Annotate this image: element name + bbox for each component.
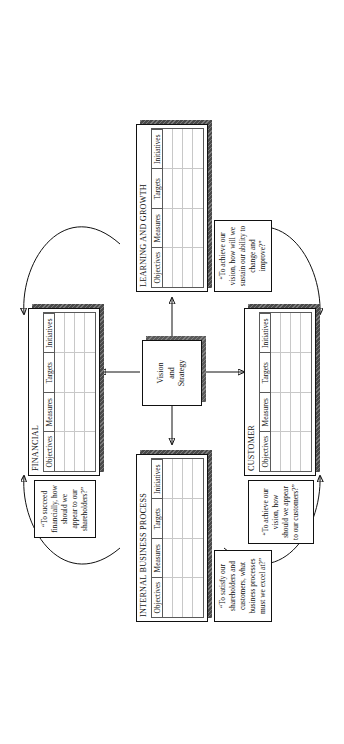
panel-internal-business-process[interactable]: INTERNAL BUSINESS PROCESS Objectives Mea… bbox=[136, 454, 208, 622]
grid-cell[interactable] bbox=[173, 129, 183, 169]
grid-cell[interactable] bbox=[163, 169, 173, 209]
vision-and-strategy-box[interactable]: Vision and Strategy bbox=[142, 340, 202, 406]
grid-cell[interactable] bbox=[55, 313, 65, 353]
grid-cell[interactable] bbox=[173, 499, 183, 539]
column-header-targets: Targets bbox=[152, 499, 163, 539]
column-header-initiatives: Initiatives bbox=[260, 313, 271, 353]
grid-cell[interactable] bbox=[173, 208, 183, 248]
grid-cell[interactable] bbox=[163, 538, 173, 578]
grid-cell[interactable] bbox=[173, 538, 183, 578]
grid-cell[interactable] bbox=[271, 432, 281, 472]
grid-cell[interactable] bbox=[183, 578, 193, 618]
grid-cell[interactable] bbox=[301, 353, 311, 393]
column-header-objectives: Objectives bbox=[44, 432, 55, 472]
arrow-curve-learning-to-financial bbox=[24, 227, 120, 314]
panel-title-customer: CUSTOMER bbox=[248, 425, 256, 471]
grid-cell[interactable] bbox=[65, 353, 75, 393]
grid-cell[interactable] bbox=[193, 129, 203, 169]
grid-cell[interactable] bbox=[173, 578, 183, 618]
vision-line-2: and bbox=[167, 360, 177, 387]
grid-cell[interactable] bbox=[183, 499, 193, 539]
grid-cell[interactable] bbox=[193, 499, 203, 539]
column-header-measures: Measures bbox=[152, 208, 163, 248]
grid-cell[interactable] bbox=[163, 578, 173, 618]
grid-cell[interactable] bbox=[193, 169, 203, 209]
grid-cell[interactable] bbox=[271, 313, 281, 353]
column-header-objectives: Objectives bbox=[260, 432, 271, 472]
quote-financial: “To succeed financially, how should we a… bbox=[34, 480, 96, 538]
grid-cell[interactable] bbox=[75, 432, 85, 472]
column-header-objectives: Objectives bbox=[152, 578, 163, 618]
grid-cell[interactable] bbox=[163, 208, 173, 248]
balanced-scorecard-diagram: FINANCIAL Objectives Measures Targets In… bbox=[0, 0, 344, 744]
column-header-targets: Targets bbox=[152, 169, 163, 209]
grid-cell[interactable] bbox=[281, 353, 291, 393]
panel-customer[interactable]: CUSTOMER Objectives Measures Targets Ini… bbox=[244, 308, 316, 476]
grid-cell[interactable] bbox=[85, 432, 95, 472]
grid-cell[interactable] bbox=[193, 248, 203, 288]
scorecard-grid-learning-and-growth: Objectives Measures Targets Initiatives bbox=[151, 128, 204, 288]
grid-cell[interactable] bbox=[183, 538, 193, 578]
grid-cell[interactable] bbox=[281, 313, 291, 353]
grid-cell[interactable] bbox=[85, 313, 95, 353]
panel-title-financial: FINANCIAL bbox=[32, 425, 40, 471]
grid-cell[interactable] bbox=[55, 353, 65, 393]
column-header-measures: Measures bbox=[152, 538, 163, 578]
grid-cell[interactable] bbox=[173, 248, 183, 288]
grid-cell[interactable] bbox=[65, 392, 75, 432]
grid-cell[interactable] bbox=[281, 392, 291, 432]
grid-cell[interactable] bbox=[163, 499, 173, 539]
grid-cell[interactable] bbox=[301, 313, 311, 353]
grid-cell[interactable] bbox=[193, 578, 203, 618]
grid-cell[interactable] bbox=[183, 169, 193, 209]
grid-cell[interactable] bbox=[291, 313, 301, 353]
diagram-canvas: FINANCIAL Objectives Measures Targets In… bbox=[0, 0, 344, 744]
grid-cell[interactable] bbox=[193, 538, 203, 578]
grid-cell[interactable] bbox=[183, 248, 193, 288]
grid-cell[interactable] bbox=[271, 392, 281, 432]
grid-cell[interactable] bbox=[85, 353, 95, 393]
panel-body: INTERNAL BUSINESS PROCESS Objectives Mea… bbox=[136, 454, 208, 622]
grid-cell[interactable] bbox=[183, 459, 193, 499]
vision-line-3: Strategy bbox=[177, 360, 187, 387]
grid-cell[interactable] bbox=[271, 353, 281, 393]
quote-learning-and-growth: “To achieve our vision, how will we sust… bbox=[214, 220, 272, 292]
column-header-objectives: Objectives bbox=[152, 248, 163, 288]
grid-cell[interactable] bbox=[85, 392, 95, 432]
grid-cell[interactable] bbox=[163, 459, 173, 499]
panel-learning-and-growth[interactable]: LEARNING AND GROWTH Objectives Measures … bbox=[136, 124, 208, 292]
grid-cell[interactable] bbox=[291, 432, 301, 472]
grid-cell[interactable] bbox=[75, 392, 85, 432]
scorecard-grid-customer: Objectives Measures Targets Initiatives bbox=[259, 312, 312, 472]
column-header-initiatives: Initiatives bbox=[44, 313, 55, 353]
grid-cell[interactable] bbox=[65, 432, 75, 472]
column-header-targets: Targets bbox=[260, 353, 271, 393]
grid-cell[interactable] bbox=[173, 459, 183, 499]
grid-cell[interactable] bbox=[55, 392, 65, 432]
grid-cell[interactable] bbox=[183, 208, 193, 248]
column-header-measures: Measures bbox=[260, 392, 271, 432]
grid-cell[interactable] bbox=[75, 353, 85, 393]
grid-cell[interactable] bbox=[173, 169, 183, 209]
grid-cell[interactable] bbox=[291, 392, 301, 432]
grid-cell[interactable] bbox=[65, 313, 75, 353]
grid-cell[interactable] bbox=[163, 129, 173, 169]
grid-cell[interactable] bbox=[301, 432, 311, 472]
grid-cell[interactable] bbox=[281, 432, 291, 472]
panel-title-learning-and-growth: LEARNING AND GROWTH bbox=[140, 184, 148, 287]
grid-cell[interactable] bbox=[301, 392, 311, 432]
grid-cell[interactable] bbox=[55, 432, 65, 472]
grid-cell[interactable] bbox=[183, 129, 193, 169]
column-header-initiatives: Initiatives bbox=[152, 129, 163, 169]
grid-cell[interactable] bbox=[163, 248, 173, 288]
panel-body: FINANCIAL Objectives Measures Targets In… bbox=[28, 308, 100, 476]
grid-cell[interactable] bbox=[193, 459, 203, 499]
column-header-measures: Measures bbox=[44, 392, 55, 432]
panel-body: LEARNING AND GROWTH Objectives Measures … bbox=[136, 124, 208, 292]
grid-cell[interactable] bbox=[291, 353, 301, 393]
grid-cell[interactable] bbox=[193, 208, 203, 248]
panel-financial[interactable]: FINANCIAL Objectives Measures Targets In… bbox=[28, 308, 100, 476]
quote-customer: “To achieve our vision, how should we ap… bbox=[248, 480, 314, 544]
grid-cell[interactable] bbox=[75, 313, 85, 353]
vision-line-1: Vision bbox=[156, 360, 166, 387]
